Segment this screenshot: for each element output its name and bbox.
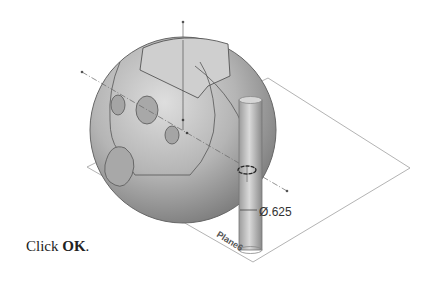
- hole-3: [165, 126, 179, 144]
- caption-text: Click: [26, 238, 62, 254]
- instruction-caption: Click OK.: [26, 238, 89, 255]
- hole-1: [111, 95, 125, 115]
- cylinder: [239, 100, 262, 250]
- diameter-dimension[interactable]: Ø.625: [259, 205, 292, 219]
- cylinder-top: [239, 97, 262, 104]
- ok-label: OK: [62, 238, 85, 254]
- caption-period: .: [86, 238, 90, 254]
- hole-2: [136, 96, 158, 124]
